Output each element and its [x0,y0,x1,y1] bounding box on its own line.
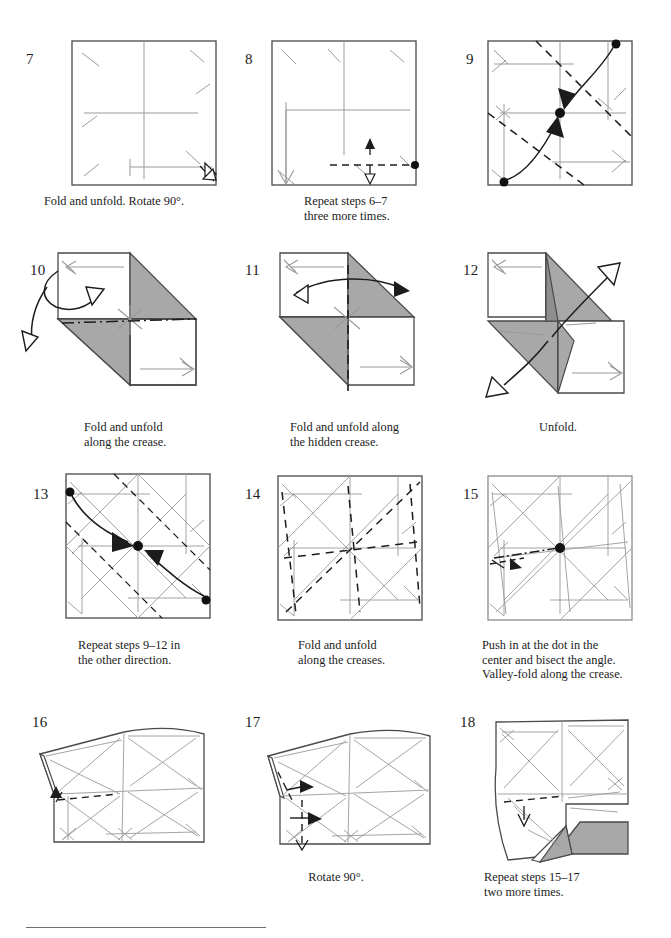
step-16-figure: 16 [0,694,224,894]
3d-pinwheel-model [280,253,414,385]
step-8-caption: Repeat steps 6–7 three more times. [304,194,454,223]
step-8-figure: 8 [224,24,448,214]
step-10-figure: 10 [0,245,224,445]
step-11-caption: Fold and unfold along the hidden crease. [290,420,450,449]
step-17-caption: Rotate 90°. [236,870,436,885]
step-8-diagram [224,24,448,214]
reference-dot-center [555,543,565,553]
step-12-diagram [448,245,671,445]
step-18-number: 18 [460,714,475,731]
step-7-number: 7 [26,51,34,68]
step-7-figure: 7 [0,24,224,214]
reference-dot-center [133,541,143,551]
step-13-caption: Repeat steps 9–12 in the other direction… [78,638,228,667]
step-15-number: 15 [463,486,478,503]
footer-rule [26,927,266,928]
origami-instruction-page: 7 [0,0,671,938]
step-18-diagram [448,694,671,894]
step-15-diagram [448,462,671,662]
step-17-figure: 17 [224,694,448,894]
step-16-number: 16 [32,714,47,731]
step-10-caption: Fold and unfold along the crease. [84,420,224,449]
step-11-number: 11 [245,262,260,279]
step-13-number: 13 [33,486,48,503]
step-7-caption: Fold and unfold. Rotate 90°. [12,194,216,209]
step-8-number: 8 [245,51,253,68]
step-12-number: 12 [463,262,478,279]
step-14-caption: Fold and unfold along the creases. [298,638,448,667]
step-9-diagram [448,24,671,214]
step-18-caption: Repeat steps 15–17 two more times. [484,870,654,899]
step-12-figure: 12 [448,245,671,445]
reference-dot-bottomright [202,596,211,605]
step-15-figure: 15 [448,462,671,677]
step-18-figure: 18 [448,694,671,909]
step-9-figure: 9 [448,24,671,214]
step-12-caption: Unfold. [458,420,658,435]
reference-dot [411,161,419,169]
step-15-caption: Push in at the dot in the center and bis… [482,638,671,682]
step-10-number: 10 [30,262,45,279]
reference-dot-center [555,108,565,118]
step-14-number: 14 [245,486,260,503]
reference-dot-topleft [66,488,75,497]
step-14-figure: 14 [224,462,448,662]
step-17-number: 17 [245,714,260,731]
step-11-figure: 11 [224,245,448,445]
step-9-number: 9 [466,51,474,68]
step-13-figure: 13 [0,462,224,662]
